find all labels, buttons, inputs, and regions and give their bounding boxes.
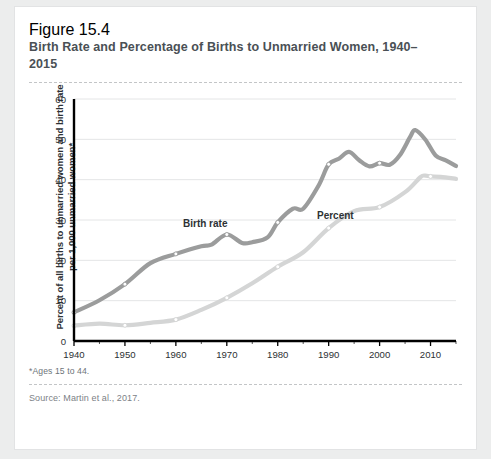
figure-title: Birth Rate and Percentage of Births to U…	[29, 39, 439, 73]
x-tick-labels: 19401950196019701980199020002010	[63, 349, 441, 359]
svg-text:1960: 1960	[165, 349, 186, 359]
figure-footnote: *Ages 15 to 44.	[29, 366, 462, 376]
svg-text:60: 60	[55, 94, 66, 105]
series-label-percent: Percent	[317, 210, 354, 221]
line-chart: 0102030405060 19401950196019701980199020…	[29, 91, 463, 359]
svg-text:2010: 2010	[420, 349, 441, 359]
figure-card: Figure 15.4 Birth Rate and Percentage of…	[14, 6, 477, 450]
svg-text:30: 30	[55, 215, 66, 226]
svg-text:0: 0	[61, 336, 66, 347]
svg-text:1950: 1950	[114, 349, 135, 359]
marker-layer	[72, 161, 433, 328]
y-tick-labels: 0102030405060	[55, 94, 66, 347]
figure-source: Source: Martin et al., 2017.	[29, 393, 462, 403]
svg-text:1970: 1970	[216, 349, 237, 359]
divider-bottom	[29, 384, 462, 385]
svg-text:1990: 1990	[318, 349, 339, 359]
svg-text:2000: 2000	[369, 349, 390, 359]
figure-inner: Figure 15.4 Birth Rate and Percentage of…	[29, 21, 462, 439]
svg-text:20: 20	[55, 255, 66, 266]
svg-text:10: 10	[55, 295, 66, 306]
series-layer	[74, 130, 456, 326]
svg-text:50: 50	[55, 134, 66, 145]
svg-text:1980: 1980	[267, 349, 288, 359]
svg-text:1940: 1940	[63, 349, 84, 359]
divider-top	[29, 82, 462, 83]
figure-label: Figure 15.4	[29, 21, 462, 39]
gridlines	[74, 99, 456, 301]
series-label-birth-rate: Birth rate	[183, 218, 228, 229]
chart-container: Percent of all births to unmarried women…	[29, 91, 463, 359]
svg-text:40: 40	[55, 174, 66, 185]
